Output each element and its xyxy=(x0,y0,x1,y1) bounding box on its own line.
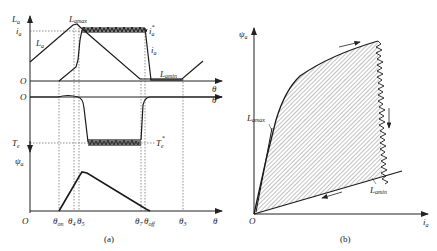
current-trace xyxy=(59,30,82,81)
energy-loop-area xyxy=(254,41,382,214)
current-level-label: ia xyxy=(16,26,22,37)
arrow-up-right-icon xyxy=(339,42,360,47)
flux-y-label: ψa xyxy=(15,156,24,167)
panel-b-origin: O xyxy=(249,216,256,226)
ref-torque-label: Te* xyxy=(156,135,165,149)
torque-origin: O xyxy=(20,92,27,102)
srm-waveform-figure: La ia La Lamax ia* ia Lamin O θ O θ Te T… xyxy=(0,0,437,251)
angle-theta-4: θ4 xyxy=(68,216,75,227)
panel-b: ψa Lamax Lamin O ia (b) xyxy=(239,28,429,244)
panel-a: La ia La Lamax ia* ia Lamin O θ O θ Te T… xyxy=(11,14,222,244)
current-trace-label: ia xyxy=(151,45,157,56)
lmax-label: Lamax xyxy=(68,14,87,24)
top-origin: O xyxy=(20,76,27,86)
panel-a-caption: (a) xyxy=(104,234,114,244)
current-band-fill xyxy=(82,27,145,33)
torque-y-label: Te xyxy=(12,138,20,149)
torque-recovery xyxy=(141,97,222,140)
panel-b-lmin-label: Lamin xyxy=(369,185,387,195)
lmin-label: Lamin xyxy=(159,69,177,79)
top-x-label: θ xyxy=(212,84,217,94)
angle-theta-on: θon xyxy=(53,216,63,227)
flux-origin: O xyxy=(22,216,29,226)
angle-guide-lines xyxy=(59,28,183,211)
panel-b-caption: (b) xyxy=(340,234,351,244)
panel-b-x-label: ia xyxy=(423,217,429,228)
ref-current-label: ia* xyxy=(149,24,155,37)
panel-b-y-label: ψa xyxy=(239,29,248,40)
flux-x-label: θ xyxy=(213,216,218,226)
angle-theta-3: θ3 xyxy=(179,216,186,227)
lmax-leader xyxy=(269,124,272,131)
top-y-label: La xyxy=(11,14,20,25)
inductance-trace-label: La xyxy=(35,38,44,49)
panel-b-lmax-label: Lamax xyxy=(246,113,265,123)
angle-theta-7: θ7 xyxy=(135,216,143,227)
flux-trace xyxy=(59,172,150,211)
angle-theta-off: θoff xyxy=(144,216,156,227)
angle-theta-5: θ5 xyxy=(77,216,84,227)
torque-x-label: θ xyxy=(212,95,217,105)
